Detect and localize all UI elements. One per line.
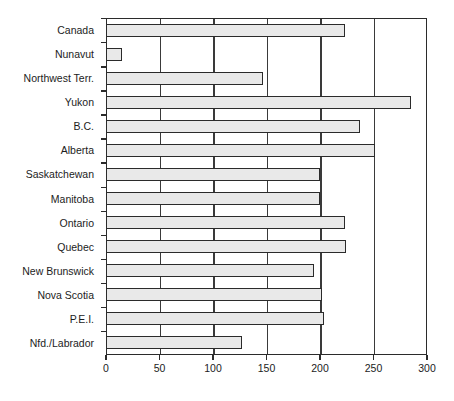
y-axis-tick [101,235,106,236]
x-axis-label: 200 [311,362,329,374]
y-axis-tick [101,162,106,163]
bar-chart: CanadaNunavutNorthwest Terr.YukonB.C.Alb… [0,0,454,401]
bar-row[interactable] [106,259,427,283]
bar-row[interactable] [106,162,427,186]
bar-row[interactable] [106,283,427,307]
y-axis-label: Nfd./Labrador [0,331,100,355]
y-axis-tick [101,90,106,91]
bar[interactable] [106,120,360,133]
y-axis-tick [101,114,106,115]
bar[interactable] [106,192,320,205]
bar[interactable] [106,216,345,229]
bar[interactable] [106,48,122,61]
x-axis-label: 250 [365,362,383,374]
x-axis-tick [266,355,267,360]
y-axis-label: B.C. [0,114,100,138]
y-axis-label: Nunavut [0,42,100,66]
bar[interactable] [106,168,320,181]
y-axis-tick [101,211,106,212]
x-axis-tick [319,355,320,360]
y-axis-labels: CanadaNunavutNorthwest Terr.YukonB.C.Alb… [0,18,100,355]
x-axis-label: 0 [103,362,109,374]
bar-row[interactable] [106,90,427,114]
bar-row[interactable] [106,138,427,162]
bar[interactable] [106,24,345,37]
bar-series [106,18,427,355]
bar[interactable] [106,72,263,85]
x-axis: 050100150200250300 [106,355,427,385]
bar[interactable] [106,264,314,277]
y-axis-tick [101,42,106,43]
x-axis-tick [373,355,374,360]
x-axis-label: 50 [154,362,166,374]
y-axis-label: Alberta [0,138,100,162]
y-axis-label: Canada [0,18,100,42]
y-axis-label: Northwest Terr. [0,66,100,90]
y-axis-label: Nova Scotia [0,283,100,307]
y-axis-label: Quebec [0,235,100,259]
bar-row[interactable] [106,114,427,138]
bar[interactable] [106,96,411,109]
bar-row[interactable] [106,211,427,235]
y-axis-label: Manitoba [0,187,100,211]
x-axis-tick [105,355,106,360]
bar-row[interactable] [106,66,427,90]
y-axis-label: Yukon [0,90,100,114]
y-axis-label: P.E.I. [0,307,100,331]
bar[interactable] [106,312,324,325]
bar[interactable] [106,336,242,349]
x-axis-tick [212,355,213,360]
y-axis-tick [101,138,106,139]
bar-row[interactable] [106,42,427,66]
x-axis-label: 150 [258,362,276,374]
x-axis-tick [159,355,160,360]
x-axis-tick [426,355,427,360]
y-axis-tick [101,307,106,308]
bar-row[interactable] [106,187,427,211]
y-axis-tick [101,187,106,188]
y-axis-label: New Brunswick [0,259,100,283]
x-axis-label: 100 [204,362,222,374]
y-axis-tick [101,331,106,332]
y-axis-tick [101,18,106,19]
y-axis-tick [101,66,106,67]
y-axis-label: Saskatchewan [0,162,100,186]
bar-row[interactable] [106,18,427,42]
y-axis-tick [101,259,106,260]
y-axis-tick [101,283,106,284]
bar-row[interactable] [106,307,427,331]
bar-row[interactable] [106,235,427,259]
bar[interactable] [106,288,322,301]
bar[interactable] [106,144,375,157]
y-axis-label: Ontario [0,211,100,235]
bar[interactable] [106,240,346,253]
x-axis-label: 300 [418,362,436,374]
bar-row[interactable] [106,331,427,355]
